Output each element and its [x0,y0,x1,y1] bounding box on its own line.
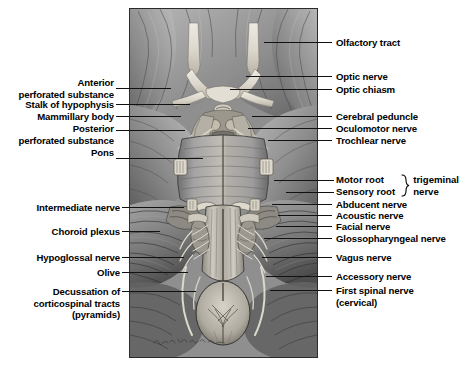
leader-choroid-plexus [122,231,160,232]
leader-oculomotor-nerve [248,128,332,129]
label-facial-nerve: Facial nerve [336,221,390,233]
label-optic-chiasm: Optic chiasm [336,84,395,96]
leader-motor-root [274,180,334,181]
leader-anterior-perforated-substance [116,88,171,89]
label-accessory-nerve: Accessory nerve [336,271,411,283]
leader-accessory-nerve [266,276,332,277]
leader-trochlear-nerve [268,140,332,141]
brainstem-drawing [130,9,317,357]
label-stalk-of-hypophysis: Stalk of hypophysis [4,99,114,111]
label-olive: Olive [4,267,120,279]
leader-posterior-perforated-substance [116,130,185,131]
label-oculomotor-nerve: Oculomotor nerve [336,123,417,135]
leader-abducent-nerve [272,204,332,205]
leader-olfactory-tract [264,42,332,43]
leader-intermediate-nerve [122,207,184,208]
label-glossopharyngeal-nerve: Glossopharyngeal nerve [336,233,446,245]
leader-pons [116,158,203,159]
leader-optic-chiasm [230,89,332,90]
leader-sensory-root [286,192,334,193]
trigeminal-nerve-name: trigeminal nerve [413,174,459,197]
leader-hypoglossal-nerve [122,257,184,258]
label-vagus-nerve: Vagus nerve [336,252,391,264]
label-first-spinal-nerve: First spinal nerve (cervical) [336,285,414,308]
label-hypoglossal-nerve: Hypoglossal nerve [4,252,120,264]
leader-first-spinal-nerve [270,290,332,291]
label-anterior-perforated-substance: Anterior perforated substance [4,77,114,100]
leader-decussation-of-pyramids [122,291,196,292]
leader-vagus-nerve [262,257,332,258]
trigeminal-nerve-label-group: Motor root Sensory root trigeminal nerve [336,174,459,197]
leader-acoustic-nerve [278,215,332,216]
pons [177,135,268,209]
label-decussation-of-corticospinal-tracts: Decussation of corticospinal tracts (pyr… [4,286,120,321]
label-abducent-nerve: Abducent nerve [336,199,407,211]
spinal-cord-decussation [196,281,250,345]
label-posterior-perforated-substance: Posterior perforated substance [4,123,114,146]
label-acoustic-nerve: Acoustic nerve [336,210,403,222]
label-pons: Pons [4,147,114,159]
leader-stalk-of-hypophysis [116,104,190,105]
label-cerebral-peduncle: Cerebral peduncle [336,111,418,123]
leader-facial-nerve [276,226,332,227]
label-intermediate-nerve: Intermediate nerve [4,202,120,214]
leader-olive [122,272,188,273]
leader-mammillary-body [116,116,181,117]
brainstem-illustration-plate [129,8,318,358]
leader-glossopharyngeal-nerve [264,238,332,239]
leader-cerebral-peduncle [252,116,332,117]
curly-brace-icon [401,174,410,197]
figure-page: Anterior perforated substance Stalk of h… [0,0,475,367]
label-trochlear-nerve: Trochlear nerve [336,135,406,147]
label-olfactory-tract: Olfactory tract [336,37,400,49]
leader-optic-nerve [246,76,332,77]
trigeminal-roots-labels: Motor root Sensory root [336,174,395,197]
label-optic-nerve: Optic nerve [336,71,388,83]
label-choroid-plexus: Choroid plexus [4,226,120,238]
label-mammillary-body: Mammillary body [4,111,114,123]
